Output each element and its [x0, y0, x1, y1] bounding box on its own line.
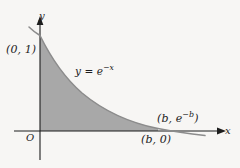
label-function-prefix: y = e	[75, 65, 103, 77]
label-curve-point-prefix: (b, e	[157, 112, 182, 125]
label-origin: O	[26, 133, 34, 143]
label-curve-point: (b, e−b)	[157, 111, 199, 124]
label-axis-y: y	[39, 11, 45, 21]
shaded-area-under-curve	[40, 36, 158, 132]
label-curve-point-exponent: −b	[182, 110, 194, 119]
label-function-exponent: −x	[103, 63, 114, 72]
label-x-intercept: (b, 0)	[141, 134, 171, 145]
label-y-intercept: (0, 1)	[6, 44, 36, 55]
label-curve-point-suffix: )	[194, 112, 198, 125]
label-axis-x: x	[225, 126, 231, 136]
exponential-decay-figure: (0, 1) y = e−x (b, e−b) (b, 0) O x y	[0, 0, 240, 168]
graph-canvas	[0, 0, 240, 168]
label-function-equation: y = e−x	[75, 64, 114, 76]
